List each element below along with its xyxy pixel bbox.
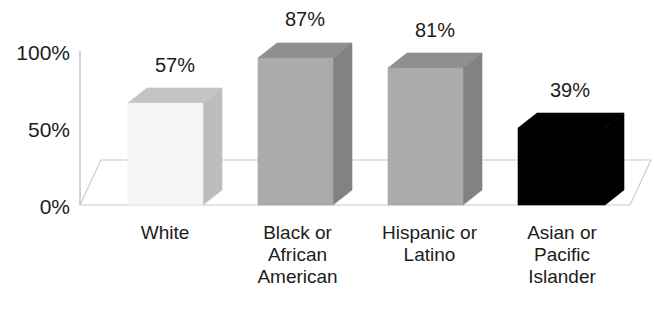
data-label-black-or-african-american: 87% bbox=[265, 9, 345, 29]
category-label-black-or-african-american-line-2: African bbox=[230, 244, 365, 266]
bar-white[interactable] bbox=[128, 88, 222, 205]
category-label-hispanic-or-latino-line-2: Latino bbox=[362, 244, 497, 266]
category-label-hispanic-or-latino: Hispanic or Latino bbox=[362, 222, 497, 266]
bar-black-or-african-american-side-face bbox=[333, 43, 352, 205]
category-label-white: White bbox=[110, 222, 220, 244]
data-label-hispanic-or-latino: 81% bbox=[395, 20, 475, 40]
bar-asian-or-pacific-islander-front-face bbox=[518, 128, 605, 205]
category-label-asian-or-pacific-islander-line-1: Asian or bbox=[497, 222, 627, 244]
bar-black-or-african-american-front-face bbox=[258, 58, 333, 205]
bar-black-or-african-american[interactable] bbox=[258, 43, 352, 205]
category-label-black-or-african-american: Black or African American bbox=[230, 222, 365, 288]
bar-asian-or-pacific-islander-side-face bbox=[605, 113, 624, 205]
bar-asian-or-pacific-islander[interactable] bbox=[518, 113, 624, 205]
bar-white-side-face bbox=[203, 88, 222, 205]
bar-hispanic-or-latino[interactable] bbox=[388, 53, 482, 205]
category-label-asian-or-pacific-islander-line-2: Pacific bbox=[497, 244, 627, 266]
category-label-asian-or-pacific-islander-line-3: Islander bbox=[497, 266, 627, 288]
y-tick-100: 100% bbox=[0, 42, 70, 63]
bar-white-front-face bbox=[128, 103, 203, 205]
data-label-white: 57% bbox=[135, 55, 215, 75]
category-label-hispanic-or-latino-line-1: Hispanic or bbox=[362, 222, 497, 244]
data-label-asian-or-pacific-islander: 39% bbox=[530, 80, 610, 100]
category-label-black-or-african-american-line-3: American bbox=[230, 266, 365, 288]
bar-asian-or-pacific-islander-top-face bbox=[518, 113, 624, 128]
bar-hispanic-or-latino-side-face bbox=[463, 53, 482, 205]
chart-container: 100% 50% 0% 57% 87% 81% 39% White Black … bbox=[0, 0, 654, 309]
floor-left-depth-edge bbox=[80, 160, 101, 205]
category-label-asian-or-pacific-islander: Asian or Pacific Islander bbox=[497, 222, 627, 288]
category-label-white-line-1: White bbox=[110, 222, 220, 244]
bar-hispanic-or-latino-front-face bbox=[388, 68, 463, 205]
y-tick-0: 0% bbox=[0, 196, 70, 217]
y-tick-50: 50% bbox=[0, 119, 70, 140]
category-label-black-or-african-american-line-1: Black or bbox=[230, 222, 365, 244]
floor-right-depth-edge bbox=[630, 160, 651, 205]
